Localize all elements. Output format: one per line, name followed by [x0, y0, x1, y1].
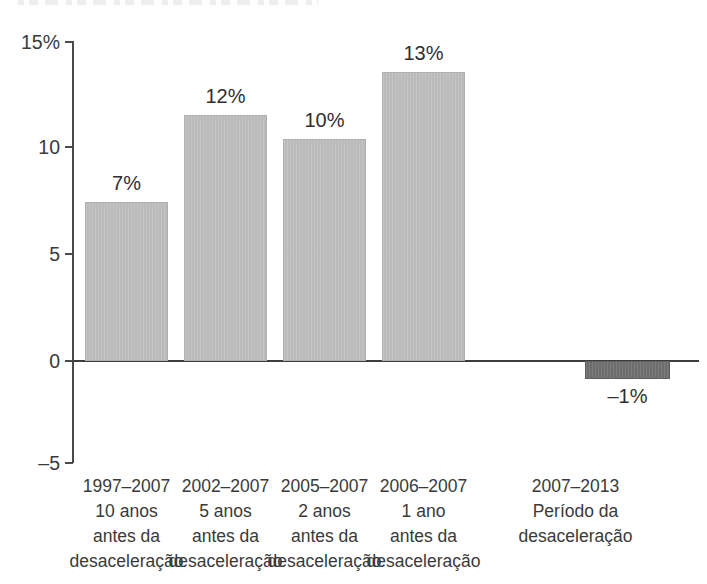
bar-2006-2007	[382, 72, 465, 361]
category-line-1: 2007–2013	[494, 474, 657, 499]
y-axis-label-10: 10	[4, 136, 60, 159]
bar-1997-2007	[85, 202, 168, 361]
bar-2007-2013	[585, 361, 670, 379]
y-axis-line	[72, 41, 74, 463]
bar-chart-figure: 15% 10 5 0 –5 7% 12% 10% 13% –1% 1997–20…	[0, 0, 707, 584]
y-axis-label-5: 5	[4, 243, 60, 266]
plot-area: 15% 10 5 0 –5 7% 12% 10% 13% –1% 1997–20…	[0, 0, 707, 584]
bar-value-2005-2007: 10%	[283, 109, 366, 132]
y-tick-0	[65, 360, 73, 362]
category-line-4: desaceleração	[357, 549, 490, 574]
y-tick-10	[65, 146, 73, 148]
bar-value-2006-2007: 13%	[382, 42, 465, 65]
y-axis-label-0: 0	[4, 350, 60, 373]
category-label-2006-2007: 2006–2007 1 ano antes da desaceleração	[357, 474, 490, 574]
category-label-2007-2013: 2007–2013 Período da desaceleração	[494, 474, 657, 549]
y-tick-5	[65, 253, 73, 255]
y-tick-minus5	[65, 462, 73, 464]
category-line-2: 1 ano	[357, 499, 490, 524]
bar-value-2007-2013: –1%	[571, 385, 684, 408]
category-line-3: antes da	[357, 524, 490, 549]
y-tick-15	[65, 41, 73, 43]
bar-2002-2007	[184, 115, 267, 361]
bar-2005-2007	[283, 139, 366, 361]
category-line-3: desaceleração	[494, 524, 657, 549]
category-line-2: Período da	[494, 499, 657, 524]
bar-value-1997-2007: 7%	[85, 172, 168, 195]
y-axis-label-15: 15%	[4, 31, 60, 54]
y-axis-label-minus5: –5	[4, 452, 60, 475]
bar-value-2002-2007: 12%	[184, 85, 267, 108]
category-line-1: 2006–2007	[357, 474, 490, 499]
